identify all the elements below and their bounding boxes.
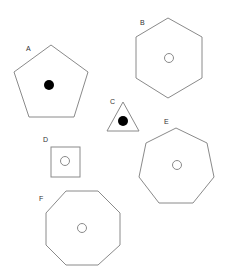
shape-f: F — [39, 191, 120, 265]
shape-d-label: D — [43, 136, 48, 143]
hollow-circle-marker — [173, 161, 182, 170]
shape-b: B — [136, 18, 202, 98]
filled-dot-marker — [118, 116, 128, 126]
shape-d: D — [43, 136, 80, 177]
shape-a: A — [14, 45, 88, 117]
heptagon — [139, 128, 214, 203]
shapes-diagram: A B C D E F — [0, 0, 227, 272]
hollow-circle-marker — [61, 157, 70, 166]
hollow-circle-marker — [78, 224, 87, 233]
hollow-circle-marker — [165, 54, 174, 63]
octagon — [46, 191, 120, 265]
shape-c: C — [107, 98, 139, 131]
shape-c-label: C — [110, 98, 115, 105]
hexagon — [136, 18, 202, 98]
filled-dot-marker — [44, 80, 54, 90]
shape-e-label: E — [164, 118, 169, 125]
shape-a-label: A — [26, 45, 31, 52]
shape-b-label: B — [140, 19, 145, 26]
square — [51, 147, 80, 177]
shape-e: E — [139, 118, 214, 203]
shape-f-label: F — [39, 195, 43, 202]
